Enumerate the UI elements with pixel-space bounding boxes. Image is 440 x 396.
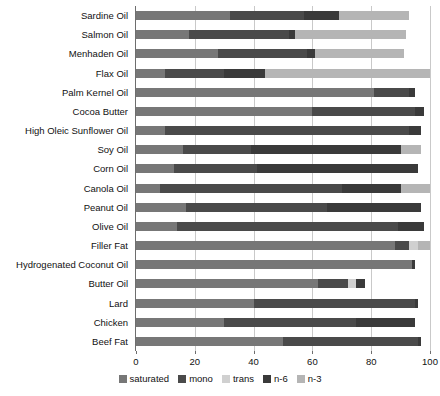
bar-segment-n-6[interactable] xyxy=(356,279,365,288)
bar-segment-saturated[interactable] xyxy=(136,299,254,308)
bar-segment-n-6[interactable] xyxy=(257,164,419,173)
bar-segment-n-6[interactable] xyxy=(398,222,424,231)
bar-segment-n-3[interactable] xyxy=(401,145,422,154)
stacked-bar[interactable] xyxy=(136,107,424,116)
bar-segment-n-3[interactable] xyxy=(315,49,403,58)
bar-segment-n-3[interactable] xyxy=(401,184,430,193)
bar-row[interactable] xyxy=(136,279,430,288)
stacked-bar[interactable] xyxy=(136,164,418,173)
stacked-bar[interactable] xyxy=(136,184,430,193)
bar-row[interactable] xyxy=(136,88,430,97)
bar-segment-saturated[interactable] xyxy=(136,30,189,39)
stacked-bar[interactable] xyxy=(136,30,406,39)
legend-item-n-6[interactable]: n-6 xyxy=(263,374,288,384)
bar-segment-mono[interactable] xyxy=(254,299,416,308)
bar-segment-mono[interactable] xyxy=(374,88,409,97)
bar-row[interactable] xyxy=(136,299,430,308)
bar-row[interactable] xyxy=(136,337,430,346)
stacked-bar[interactable] xyxy=(136,260,415,269)
stacked-bar[interactable] xyxy=(136,49,404,58)
bar-segment-saturated[interactable] xyxy=(136,337,283,346)
stacked-bar[interactable] xyxy=(136,88,415,97)
bar-segment-n-6[interactable] xyxy=(342,184,401,193)
legend-item-trans[interactable]: trans xyxy=(222,374,254,384)
bar-segment-mono[interactable] xyxy=(312,107,415,116)
bar-segment-saturated[interactable] xyxy=(136,164,174,173)
bar-segment-n-6[interactable] xyxy=(224,69,265,78)
bar-segment-mono[interactable] xyxy=(186,203,327,212)
bar-segment-mono[interactable] xyxy=(183,145,251,154)
bar-segment-saturated[interactable] xyxy=(136,88,374,97)
stacked-bar[interactable] xyxy=(136,337,421,346)
bar-segment-saturated[interactable] xyxy=(136,203,186,212)
stacked-bar[interactable] xyxy=(136,203,421,212)
stacked-bar[interactable] xyxy=(136,126,421,135)
legend-item-saturated[interactable]: saturated xyxy=(119,374,170,384)
bar-segment-mono[interactable] xyxy=(160,184,342,193)
bar-row[interactable] xyxy=(136,222,430,231)
bar-segment-saturated[interactable] xyxy=(136,145,183,154)
bar-segment-mono[interactable] xyxy=(165,69,224,78)
stacked-bar[interactable] xyxy=(136,299,418,308)
legend-item-n-3[interactable]: n-3 xyxy=(297,374,322,384)
bar-segment-mono[interactable] xyxy=(230,11,304,20)
bar-segment-saturated[interactable] xyxy=(136,260,412,269)
bar-segment-mono[interactable] xyxy=(174,164,256,173)
bar-segment-mono[interactable] xyxy=(318,279,347,288)
bar-segment-n-6[interactable] xyxy=(415,107,424,116)
bar-segment-mono[interactable] xyxy=(395,241,410,250)
bar-row[interactable] xyxy=(136,49,430,58)
bar-segment-n-6[interactable] xyxy=(415,299,418,308)
bar-row[interactable] xyxy=(136,318,430,327)
bar-segment-n-3[interactable] xyxy=(339,11,410,20)
bar-segment-saturated[interactable] xyxy=(136,107,312,116)
stacked-bar[interactable] xyxy=(136,318,415,327)
stacked-bar[interactable] xyxy=(136,241,430,250)
bar-segment-n-3[interactable] xyxy=(265,69,430,78)
bar-segment-trans[interactable] xyxy=(409,241,418,250)
bar-segment-trans[interactable] xyxy=(348,279,357,288)
bar-segment-mono[interactable] xyxy=(224,318,356,327)
bar-segment-mono[interactable] xyxy=(218,49,306,58)
bar-row[interactable] xyxy=(136,107,430,116)
bar-segment-saturated[interactable] xyxy=(136,69,165,78)
stacked-bar[interactable] xyxy=(136,69,430,78)
bar-segment-n-6[interactable] xyxy=(327,203,421,212)
bar-segment-n-3[interactable] xyxy=(418,241,430,250)
bar-segment-n-6[interactable] xyxy=(251,145,401,154)
bar-row[interactable] xyxy=(136,145,430,154)
bar-segment-n-6[interactable] xyxy=(409,126,421,135)
bar-segment-saturated[interactable] xyxy=(136,11,230,20)
bar-segment-n-6[interactable] xyxy=(418,337,421,346)
bar-segment-saturated[interactable] xyxy=(136,126,165,135)
bar-segment-mono[interactable] xyxy=(283,337,418,346)
bar-row[interactable] xyxy=(136,11,430,20)
bar-segment-mono[interactable] xyxy=(189,30,289,39)
stacked-bar[interactable] xyxy=(136,11,409,20)
bar-segment-saturated[interactable] xyxy=(136,222,177,231)
bar-row[interactable] xyxy=(136,260,430,269)
bar-row[interactable] xyxy=(136,164,430,173)
bar-segment-saturated[interactable] xyxy=(136,241,395,250)
legend-item-mono[interactable]: mono xyxy=(178,374,213,384)
bar-segment-mono[interactable] xyxy=(177,222,398,231)
bar-segment-n-6[interactable] xyxy=(409,88,415,97)
bar-row[interactable] xyxy=(136,203,430,212)
stacked-bar[interactable] xyxy=(136,279,365,288)
bar-segment-n-6[interactable] xyxy=(356,318,415,327)
bar-row[interactable] xyxy=(136,184,430,193)
bar-row[interactable] xyxy=(136,69,430,78)
stacked-bar[interactable] xyxy=(136,222,424,231)
bar-segment-n-3[interactable] xyxy=(295,30,407,39)
bar-row[interactable] xyxy=(136,126,430,135)
bar-row[interactable] xyxy=(136,241,430,250)
stacked-bar[interactable] xyxy=(136,145,421,154)
bar-segment-n-6[interactable] xyxy=(412,260,415,269)
bar-segment-mono[interactable] xyxy=(165,126,409,135)
bar-segment-saturated[interactable] xyxy=(136,184,160,193)
bar-segment-saturated[interactable] xyxy=(136,279,318,288)
bar-segment-saturated[interactable] xyxy=(136,318,224,327)
bar-segment-n-6[interactable] xyxy=(304,11,339,20)
bar-row[interactable] xyxy=(136,30,430,39)
bar-segment-n-6[interactable] xyxy=(307,49,316,58)
